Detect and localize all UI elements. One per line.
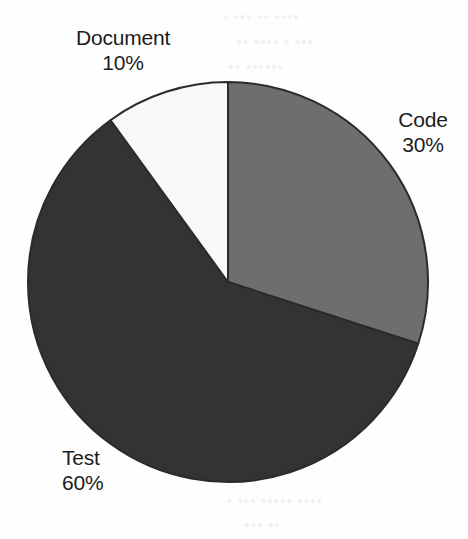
- slice-label-test-value: 60%: [62, 471, 172, 496]
- pie-slice-group: [28, 82, 428, 482]
- slice-label-code-value: 30%: [386, 133, 460, 158]
- slice-label-document: Document 10%: [61, 26, 185, 76]
- slice-label-code-name: Code: [386, 108, 460, 133]
- slice-label-code: Code 30%: [386, 108, 460, 158]
- slice-label-test: Test 60%: [62, 446, 172, 496]
- slice-label-test-name: Test: [62, 446, 172, 471]
- chart-page: • ••• •• •••• •• •••• • ••• •• •••••• ••…: [0, 0, 468, 539]
- slice-label-document-value: 10%: [61, 51, 185, 76]
- slice-label-document-name: Document: [61, 26, 185, 51]
- pie-chart: Document 10% Code 30% Test 60%: [0, 0, 468, 539]
